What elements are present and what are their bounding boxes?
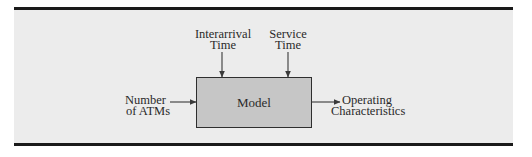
input-label-interarrival-time: Interarrival Time: [191, 29, 255, 51]
input-label-interarrival-line2: Time: [191, 40, 255, 51]
model-label: Model: [237, 95, 271, 111]
input-label-number-of-atms: Number of ATMs: [124, 95, 170, 117]
output-label-operating-line2: Characteristics: [331, 106, 431, 117]
bottom-rule: [14, 143, 513, 146]
input-label-service-time: Service Time: [264, 29, 312, 51]
top-rule: [14, 7, 513, 10]
input-label-atms-line2: of ATMs: [124, 106, 170, 117]
output-label-operating-characteristics: Operating Characteristics: [331, 95, 431, 117]
model-box: Model: [196, 77, 312, 128]
input-label-service-line2: Time: [264, 40, 312, 51]
